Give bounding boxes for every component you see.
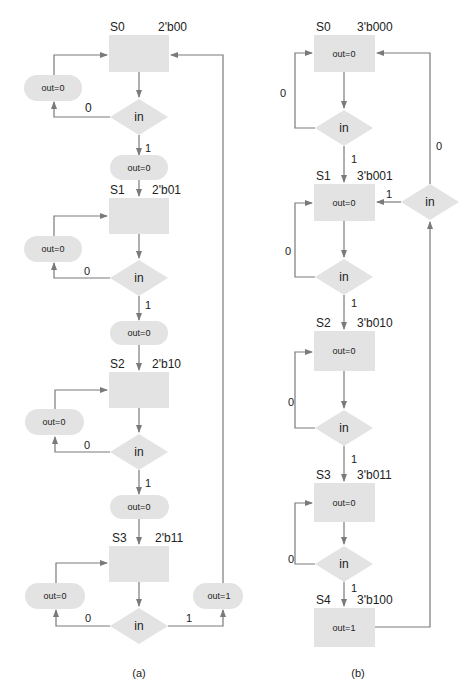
branch-one-label: 1 — [351, 153, 357, 165]
state-b-s0: out=0 S0 3'b000 — [314, 20, 393, 72]
diagram-a: S0 2'b00 in 0 out=0 1 out=0 S1 2'b01 — [24, 20, 243, 679]
branch-one-label: 1 — [145, 477, 151, 489]
branch-zero-label: 0 — [288, 396, 294, 408]
branch-zero-label: 0 — [85, 612, 91, 624]
edge-return — [171, 55, 223, 583]
decision-a-0: in — [110, 99, 168, 135]
edge — [54, 216, 107, 236]
state-output: out=0 — [333, 498, 356, 508]
output-a-loop-2: out=0 — [25, 409, 84, 435]
state-box — [109, 546, 169, 582]
decision-label: in — [339, 557, 348, 571]
branch-zero-label: 0 — [280, 87, 286, 99]
state-code: 3'b000 — [357, 20, 393, 34]
edge-zero — [295, 203, 315, 277]
output-a-loop-1: out=0 — [24, 236, 82, 262]
decision-label: in — [339, 270, 348, 284]
state-a-s2: S2 2'b10 — [109, 357, 181, 408]
decision-a-1: in — [110, 260, 168, 296]
edge-zero — [54, 263, 110, 278]
decision-label: in — [425, 195, 434, 209]
output-a-fwd-2: out=0 — [110, 495, 169, 519]
decision-label: in — [339, 121, 348, 135]
output-label: out=1 — [208, 591, 231, 601]
state-name: S2 — [316, 316, 331, 330]
output-label: out=0 — [128, 328, 151, 338]
state-name: S0 — [316, 20, 331, 34]
state-code: 2'b10 — [152, 357, 181, 371]
state-name: S4 — [316, 593, 331, 607]
output-label: out=0 — [128, 163, 151, 173]
decision-label: in — [134, 110, 143, 124]
state-code: 3'b100 — [357, 593, 393, 607]
edge — [54, 55, 107, 75]
decision-label: in — [134, 445, 143, 459]
branch-one-label: 1 — [145, 299, 151, 311]
edge-zero — [295, 352, 315, 428]
output-a-loop-3: out=0 — [25, 583, 85, 609]
state-name: S3 — [112, 531, 127, 545]
decision-b-2: in — [315, 410, 373, 446]
state-name: S2 — [110, 357, 125, 371]
output-label: out=0 — [44, 591, 67, 601]
state-a-s0: S0 2'b00 — [109, 20, 187, 72]
decision-b-1: in — [315, 259, 373, 295]
state-box — [109, 35, 169, 72]
output-a-fwd-1: out=0 — [110, 321, 168, 345]
state-code: 2'b00 — [158, 20, 187, 34]
state-output: out=1 — [333, 623, 356, 633]
branch-zero-label: 0 — [85, 101, 92, 115]
edge-one — [168, 610, 223, 626]
edge — [56, 563, 107, 583]
branch-one-label: 1 — [351, 453, 357, 465]
state-name: S1 — [110, 183, 125, 197]
state-output: out=0 — [333, 198, 356, 208]
state-name: S3 — [316, 468, 331, 482]
state-name: S0 — [110, 20, 125, 34]
edge-return — [375, 222, 430, 627]
decision-a-3: in — [110, 608, 168, 644]
decision-b-return: in — [401, 184, 459, 220]
edge-zero — [295, 53, 315, 128]
edge-zero — [295, 503, 315, 564]
output-label: out=0 — [42, 244, 65, 254]
diagram-b: out=0 S0 3'b000 in 0 1 out=0 S1 3'b001 i… — [280, 20, 459, 679]
state-code: 3'b010 — [357, 316, 393, 330]
decision-label: in — [339, 421, 348, 435]
edge-zero — [56, 610, 110, 626]
branch-zero-label: 0 — [285, 245, 291, 257]
decision-b-3: in — [315, 546, 373, 582]
state-b-s2: out=0 S2 3'b010 — [314, 316, 393, 371]
state-code: 2'b11 — [155, 531, 183, 545]
decision-label: in — [134, 271, 143, 285]
state-code: 3'b011 — [357, 468, 392, 482]
branch-zero-label: 0 — [288, 553, 294, 565]
output-a-final: out=1 — [193, 583, 243, 609]
caption-a: (a) — [132, 667, 145, 679]
state-box — [109, 198, 169, 234]
output-label: out=0 — [128, 502, 151, 512]
state-code: 3'b001 — [357, 169, 393, 183]
branch-zero-label: 0 — [436, 140, 442, 152]
caption-b: (b) — [351, 667, 364, 679]
branch-one-label: 1 — [351, 297, 357, 309]
branch-one-label: 1 — [386, 188, 392, 200]
fsm-diagrams: S0 2'b00 in 0 out=0 1 out=0 S1 2'b01 — [0, 0, 474, 700]
output-a-loop-0: out=0 — [24, 75, 82, 101]
edge — [55, 390, 107, 409]
decision-label: in — [134, 619, 143, 633]
state-a-s3: S3 2'b11 — [109, 531, 183, 582]
state-box — [109, 372, 169, 408]
state-a-s1: S1 2'b01 — [109, 183, 181, 234]
edge-zero — [377, 53, 430, 184]
state-code: 2'b01 — [152, 183, 181, 197]
edge-zero — [55, 437, 110, 452]
branch-one-label: 1 — [186, 612, 192, 624]
decision-a-2: in — [110, 434, 168, 470]
state-name: S1 — [316, 169, 331, 183]
state-output: out=0 — [333, 49, 356, 59]
state-b-s4: out=1 S4 3'b100 — [314, 593, 393, 647]
state-output: out=0 — [333, 346, 356, 356]
branch-zero-label: 0 — [84, 265, 90, 277]
edge-zero — [54, 102, 110, 117]
